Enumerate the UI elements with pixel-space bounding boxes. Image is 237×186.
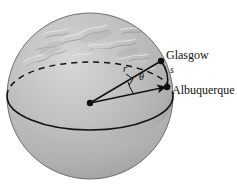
sphere-arc-length-figure: r θ s Glasgow Albuquerque xyxy=(0,0,237,186)
point-dot-albuquerque xyxy=(164,84,170,90)
point-dot-glasgow xyxy=(158,58,164,64)
angle-label-theta: θ xyxy=(139,72,144,82)
point-dot-center xyxy=(87,100,93,106)
radius-label: r xyxy=(123,64,127,74)
city-label-glasgow: Glasgow xyxy=(166,49,209,61)
city-label-albuquerque: Albuquerque xyxy=(172,84,235,96)
arc-length-label-s: s xyxy=(170,65,174,75)
